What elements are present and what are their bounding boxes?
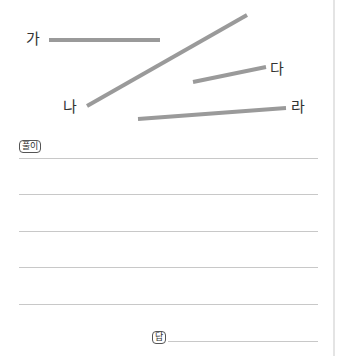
segment-label-ra: 라 bbox=[291, 100, 305, 115]
answer-label: 답 bbox=[152, 331, 166, 344]
solution-line-4 bbox=[19, 267, 318, 268]
segment-ra bbox=[138, 108, 286, 119]
segment-label-ga: 가 bbox=[26, 32, 40, 47]
answer-line[interactable] bbox=[168, 341, 318, 342]
segment-da bbox=[193, 67, 266, 82]
solution-line-1 bbox=[19, 158, 318, 159]
solution-line-3 bbox=[19, 231, 318, 232]
segment-label-da: 다 bbox=[270, 62, 284, 77]
solution-line-5 bbox=[19, 304, 318, 305]
solution-label: 풀이 bbox=[19, 140, 41, 153]
line-segments-figure bbox=[0, 0, 337, 140]
segment-na bbox=[87, 15, 247, 106]
solution-line-2 bbox=[19, 194, 318, 195]
segment-label-na: 나 bbox=[63, 100, 77, 115]
